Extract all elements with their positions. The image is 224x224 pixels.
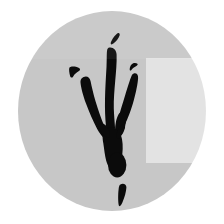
footprint-illustration <box>0 0 224 224</box>
middle-toe-claw-tip-shape <box>111 33 120 44</box>
image-canvas <box>0 0 224 224</box>
middle-toe-shape <box>105 47 117 132</box>
tail-drag-mark-shape <box>118 184 126 206</box>
right-toe-claw-tip-shape <box>130 63 138 71</box>
heel-bulb-shape <box>108 153 126 178</box>
left-toe-claw-tip-shape <box>69 67 80 78</box>
